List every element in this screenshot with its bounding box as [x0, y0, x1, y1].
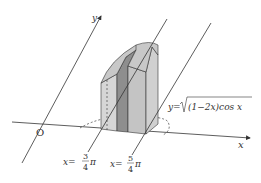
curve-label: y= (1−2x)cos x: [167, 97, 252, 112]
x-axis-label: x: [238, 139, 244, 150]
svg-text:5: 5: [128, 154, 133, 163]
solid: [101, 43, 158, 135]
right-face: [128, 66, 146, 134]
y-axis-label: y: [91, 13, 98, 23]
solid-diagram: y x O y= (1−2x)cos x x= 3 4 π x= 5 4 π: [0, 0, 261, 183]
svg-text:4: 4: [128, 165, 133, 174]
label-3-4-pi: x= 3 4 π: [63, 152, 97, 172]
svg-text:4: 4: [83, 163, 88, 172]
origin-label: O: [36, 127, 44, 138]
svg-text:(1−2x)cos x: (1−2x)cos x: [188, 102, 242, 112]
svg-text:x=: x=: [63, 157, 76, 167]
label-5-4-pi: x= 5 4 π: [110, 154, 142, 174]
svg-text:3: 3: [83, 152, 88, 161]
y-axis: [22, 16, 101, 163]
svg-text:π: π: [134, 159, 142, 169]
svg-text:x=: x=: [110, 159, 123, 169]
svg-text:y=: y=: [167, 102, 181, 112]
left-face: [101, 74, 117, 131]
svg-text:π: π: [89, 157, 97, 167]
